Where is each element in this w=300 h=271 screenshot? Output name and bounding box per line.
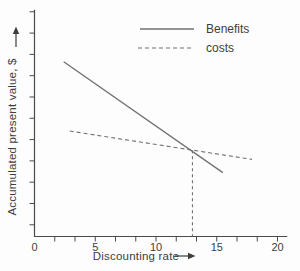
axis-lines <box>35 10 288 237</box>
x-tick-label: 20 <box>271 241 283 253</box>
chart-canvas: 05101520 Benefits costs Discounting rate… <box>0 0 300 271</box>
chart-figure: 05101520 Benefits costs Discounting rate… <box>0 0 300 271</box>
benefits-line <box>64 62 223 173</box>
legend: Benefits costs <box>138 22 249 55</box>
legend-costs-label: costs <box>206 41 234 55</box>
costs-line <box>70 131 252 159</box>
legend-benefits-label: Benefits <box>206 22 249 36</box>
y-axis-ticks <box>30 12 35 225</box>
x-axis-ticks <box>55 237 278 242</box>
series-lines <box>64 62 252 173</box>
y-axis-arrow-icon <box>13 27 19 48</box>
x-tick-label: 0 <box>31 241 37 253</box>
y-axis-label: Accumulated present value, $ <box>6 58 18 216</box>
x-axis-label: Discounting rate <box>93 250 179 262</box>
x-tick-label: 15 <box>211 241 223 253</box>
axes <box>35 10 288 237</box>
